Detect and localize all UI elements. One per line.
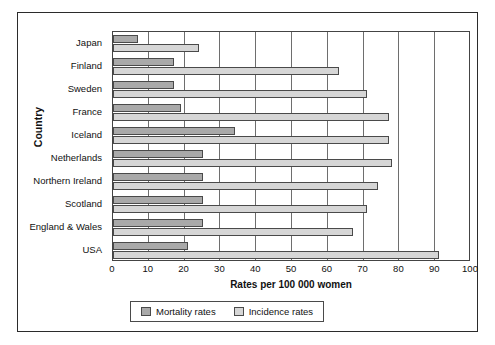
- legend-label: Incidence rates: [249, 306, 313, 317]
- x-tick-label: 60: [322, 264, 333, 274]
- y-tick-label: Japan: [76, 38, 107, 48]
- bar-mortality: [113, 81, 174, 89]
- x-tick-label: 100: [462, 264, 478, 274]
- bar-mortality: [113, 196, 203, 204]
- legend-swatch-incidence: [234, 307, 244, 316]
- x-tick-label: 40: [250, 264, 261, 274]
- bar-row: [113, 147, 469, 170]
- bar-mortality: [113, 173, 203, 181]
- x-tick-label: 90: [429, 264, 440, 274]
- bar-mortality: [113, 35, 138, 43]
- bar-incidence: [113, 205, 367, 213]
- y-axis-tick-labels: JapanFinlandSwedenFranceIcelandNetherlan…: [18, 31, 107, 261]
- bar-row: [113, 124, 469, 147]
- chart-legend: Mortality ratesIncidence rates: [130, 301, 324, 322]
- legend-swatch-mortality: [141, 307, 151, 316]
- bar-row: [113, 239, 469, 261]
- bar-mortality: [113, 58, 174, 66]
- plot-area: [112, 31, 470, 261]
- y-tick-label: Scotland: [65, 199, 107, 209]
- bar-row: [113, 101, 469, 124]
- bar-incidence: [113, 67, 339, 75]
- y-tick-label: Sweden: [68, 84, 107, 94]
- bar-incidence: [113, 159, 392, 167]
- bar-row: [113, 216, 469, 239]
- bar-mortality: [113, 104, 181, 112]
- bar-incidence: [113, 44, 199, 52]
- bar-row: [113, 32, 469, 55]
- y-tick-label: Netherlands: [51, 153, 107, 163]
- bar-incidence: [113, 90, 367, 98]
- bar-mortality: [113, 219, 203, 227]
- x-tick-label: 0: [109, 264, 114, 274]
- y-tick-label: England & Wales: [29, 222, 107, 232]
- x-tick-label: 10: [143, 264, 154, 274]
- bar-mortality: [113, 242, 188, 250]
- bar-mortality: [113, 127, 235, 135]
- y-tick-label: France: [72, 107, 107, 117]
- x-tick-label: 50: [286, 264, 297, 274]
- bar-mortality: [113, 150, 203, 158]
- y-tick-label: Northern Ireland: [33, 176, 107, 186]
- legend-label: Mortality rates: [156, 306, 216, 317]
- bar-incidence: [113, 251, 439, 259]
- x-axis-tick-labels: 0102030405060708090100: [112, 264, 470, 278]
- x-tick-label: 80: [393, 264, 404, 274]
- y-tick-label: USA: [82, 245, 107, 255]
- x-axis-title: Rates per 100 000 women: [112, 279, 470, 290]
- bar-row: [113, 193, 469, 216]
- y-tick-label: Finland: [71, 61, 107, 71]
- bar-incidence: [113, 228, 353, 236]
- y-tick-label: Iceland: [71, 130, 107, 140]
- x-tick-label: 20: [178, 264, 189, 274]
- x-tick-label: 70: [357, 264, 368, 274]
- bar-row: [113, 55, 469, 78]
- legend-item: Mortality rates: [141, 306, 216, 317]
- chart-figure: Country JapanFinlandSwedenFranceIcelandN…: [17, 12, 478, 332]
- bar-incidence: [113, 182, 378, 190]
- x-tick-label: 30: [214, 264, 225, 274]
- bar-row: [113, 170, 469, 193]
- bar-incidence: [113, 136, 389, 144]
- legend-item: Incidence rates: [234, 306, 313, 317]
- bar-row: [113, 78, 469, 101]
- bar-incidence: [113, 113, 389, 121]
